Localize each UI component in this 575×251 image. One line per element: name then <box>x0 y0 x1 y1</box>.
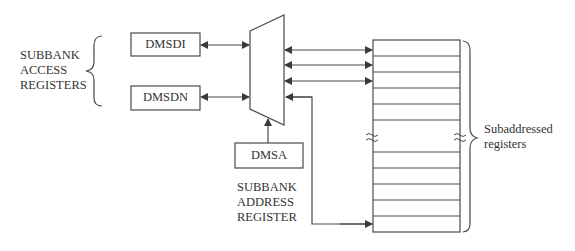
register-stack <box>373 40 460 232</box>
label-line: ACCESS <box>20 63 87 78</box>
label-line: ADDRESS <box>237 195 297 210</box>
label-line: SUBBANK <box>20 48 87 63</box>
subbank-address-register-label: SUBBANK ADDRESS REGISTER <box>237 180 297 225</box>
label-line: SUBBANK <box>237 180 297 195</box>
label-line: Subaddressed <box>484 122 553 137</box>
subaddressed-registers-label: Subaddressed registers <box>484 122 553 152</box>
dmsa-label: DMSA <box>235 148 303 163</box>
dmsdn-label: DMSDN <box>131 90 200 105</box>
left-brace <box>86 36 102 106</box>
right-brace <box>463 41 477 232</box>
subbank-access-registers-label: SUBBANK ACCESS REGISTERS <box>20 48 87 93</box>
label-line: REGISTERS <box>20 78 87 93</box>
label-line: registers <box>484 137 553 152</box>
label-line: REGISTER <box>237 210 297 225</box>
multiplexer <box>250 15 284 125</box>
break-mark-left <box>366 134 378 142</box>
dmsdi-label: DMSDI <box>131 37 200 52</box>
